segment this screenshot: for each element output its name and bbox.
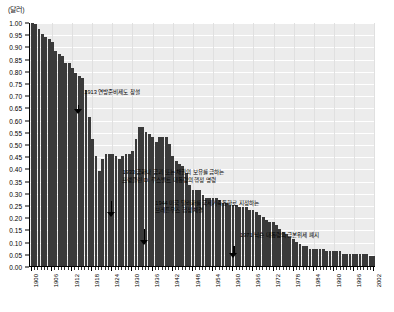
x-axis-tick-mark xyxy=(373,267,374,271)
x-axis-minor-tick xyxy=(84,267,85,270)
y-axis: 0.000.050.100.150.200.250.300.350.400.45… xyxy=(0,23,29,268)
y-axis-tick-label: 0.70 xyxy=(9,93,22,100)
x-axis-tick-label: 1972 xyxy=(275,274,281,287)
x-axis-minor-tick xyxy=(205,267,206,270)
x-axis-minor-tick xyxy=(262,267,263,270)
x-axis-minor-tick xyxy=(78,267,79,270)
x-axis-minor-tick xyxy=(242,267,243,270)
x-axis-minor-tick xyxy=(350,267,351,270)
x-axis-minor-tick xyxy=(165,267,166,270)
x-axis-minor-tick xyxy=(135,267,136,270)
x-axis-minor-tick xyxy=(128,267,129,270)
y-axis-tick-label: 0.95 xyxy=(9,32,22,39)
y-axis-tick-label: 0.55 xyxy=(9,129,22,136)
x-axis-minor-tick xyxy=(283,267,284,270)
x-axis-minor-tick xyxy=(246,267,247,270)
y-axis-tick-label: 0.40 xyxy=(9,166,22,173)
x-axis-minor-tick xyxy=(81,267,82,270)
x-axis-minor-tick xyxy=(98,267,99,270)
annot-1913-label: 1913 연방준비제도 창설 xyxy=(84,89,140,96)
x-axis-minor-tick xyxy=(148,267,149,270)
x-axis-minor-tick xyxy=(145,267,146,270)
y-axis-tick-label: 0.30 xyxy=(9,190,22,197)
x-axis-minor-tick xyxy=(108,267,109,270)
x-axis-minor-tick xyxy=(47,267,48,270)
y-axis-tick-label: 0.60 xyxy=(9,117,22,124)
x-axis-tick-mark xyxy=(31,267,32,271)
x-axis-minor-tick xyxy=(118,267,119,270)
x-axis-minor-tick xyxy=(115,267,116,270)
x-axis-minor-tick xyxy=(370,267,371,270)
chart-plot-wrapper: 1913 연방준비제도 창설1933 금화나 금괴 또는 채권의 보유를 금하는… xyxy=(29,23,375,267)
x-axis-minor-tick xyxy=(142,267,143,270)
x-axis-minor-tick xyxy=(61,267,62,270)
x-axis-minor-tick xyxy=(155,267,156,270)
x-axis-tick-label: 1960 xyxy=(235,274,241,287)
annotation-line: 브레튼우즈 협정 체결 xyxy=(155,207,259,214)
x-axis-minor-tick xyxy=(105,267,106,270)
x-axis-minor-tick xyxy=(330,267,331,270)
x-axis-minor-tick xyxy=(199,267,200,270)
annotation-line: 1933 금화나 금괴 또는 채권의 보유를 금하는 xyxy=(122,169,224,176)
arrow-head xyxy=(140,240,148,245)
x-axis-minor-tick xyxy=(95,267,96,270)
x-axis-minor-tick xyxy=(88,267,89,270)
annot-1971-label: 1971 닉슨 대통령의 금본위제 폐지 xyxy=(240,232,319,239)
y-axis-tick-label: 0.10 xyxy=(9,239,22,246)
annot-1933-label: 1933 금화나 금괴 또는 채권의 보유를 금하는프랭클린 D. 루스벨트 대… xyxy=(122,169,224,184)
arrow-shaft xyxy=(233,246,235,253)
x-axis-tick-label: 1930 xyxy=(134,274,140,287)
x-axis-tick-label: 2002 xyxy=(376,274,382,287)
x-axis-tick-label: 1900 xyxy=(33,274,39,287)
x-axis-minor-tick xyxy=(168,267,169,270)
x-axis-minor-tick xyxy=(357,267,358,270)
x-axis-minor-tick xyxy=(58,267,59,270)
x-axis-tick-label: 1912 xyxy=(74,274,80,287)
y-axis-tick-label: 0.45 xyxy=(9,154,22,161)
x-axis-minor-tick xyxy=(306,267,307,270)
annot-1933-arrow-icon xyxy=(107,201,116,217)
x-axis-minor-tick xyxy=(229,267,230,270)
x-axis-tick-mark xyxy=(172,267,173,271)
y-axis-tick-label: 1.00 xyxy=(9,20,22,27)
x-axis-minor-tick xyxy=(286,267,287,270)
x-axis-tick-label: 1918 xyxy=(94,274,100,287)
x-axis-minor-tick xyxy=(276,267,277,270)
x-axis-minor-tick xyxy=(64,267,65,270)
x-axis-minor-tick xyxy=(279,267,280,270)
y-axis-tick-label: 0.65 xyxy=(9,105,22,112)
x-axis-minor-tick xyxy=(209,267,210,270)
x-axis-minor-tick xyxy=(195,267,196,270)
x-axis-minor-tick xyxy=(222,267,223,270)
x-axis-minor-tick xyxy=(303,267,304,270)
bar-series xyxy=(30,23,375,266)
x-axis-tick-mark xyxy=(192,267,193,271)
x-axis-minor-tick xyxy=(101,267,102,270)
y-axis-tick-label: 0.20 xyxy=(9,215,22,222)
x-axis-minor-tick xyxy=(178,267,179,270)
x-axis-minor-tick xyxy=(182,267,183,270)
x-axis-minor-tick xyxy=(346,267,347,270)
y-axis-tick-label: 0.80 xyxy=(9,68,22,75)
x-axis-tick-label: 1948 xyxy=(195,274,201,287)
annot-1913-arrow-icon xyxy=(74,105,83,114)
x-axis-tick-label: 1954 xyxy=(215,274,221,287)
x-axis-tick-mark xyxy=(333,267,334,271)
x-axis-minor-tick xyxy=(336,267,337,270)
arrow-head xyxy=(107,212,115,217)
x-axis-minor-tick xyxy=(189,267,190,270)
y-axis-tick-label: 0.90 xyxy=(9,44,22,51)
annotation-line: 프랭클린 D. 루스벨트 대통령의 행정 명령 xyxy=(122,177,224,184)
y-axis-tick-label: 0.75 xyxy=(9,81,22,88)
annot-1971-arrow-icon xyxy=(229,246,238,258)
x-axis-minor-tick xyxy=(121,267,122,270)
x-axis-tick-label: 1924 xyxy=(114,274,120,287)
y-axis-unit-label: (달러) xyxy=(8,4,25,14)
x-axis-tick-mark xyxy=(232,267,233,271)
arrow-head xyxy=(229,253,237,258)
x-axis-minor-tick xyxy=(37,267,38,270)
y-axis-tick-label: 0.05 xyxy=(9,251,22,258)
x-axis-minor-tick xyxy=(44,267,45,270)
x-axis-minor-tick xyxy=(219,267,220,270)
x-axis-minor-tick xyxy=(360,267,361,270)
